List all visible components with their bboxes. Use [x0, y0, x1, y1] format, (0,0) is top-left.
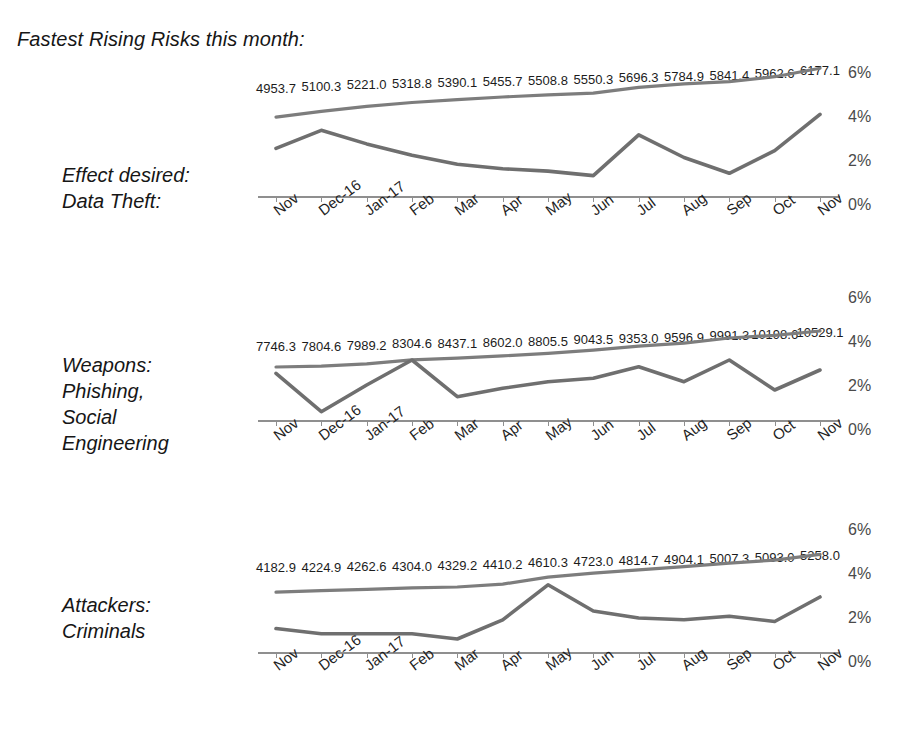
- row-label-weapons: Weapons: Phishing, Social Engineering: [62, 352, 169, 456]
- chart-page: Fastest Rising Risks this month: Effect …: [0, 0, 908, 751]
- page-title: Fastest Rising Risks this month:: [17, 28, 305, 51]
- y-axis-label: 2%: [848, 151, 896, 195]
- y-axis-label: 2%: [848, 376, 896, 420]
- y-axis-label: 6%: [848, 288, 896, 332]
- chart-2-volume-line: [276, 331, 820, 367]
- chart-1-volume-line: [276, 68, 820, 117]
- y-axis-label: 4%: [848, 107, 896, 151]
- y-axis-label: 6%: [848, 63, 896, 107]
- row-label-attackers: Attackers: Criminals: [62, 592, 151, 644]
- x-axis-labels-chart-3: NovDec-16Jan-17FebMarAprMayJunJulAugSepO…: [258, 660, 858, 720]
- row-label-effect-desired: Effect desired: Data Theft:: [62, 162, 190, 214]
- plot-area-chart-1: [258, 60, 838, 195]
- x-axis-labels-chart-2: NovDec-16Jan-17FebMarAprMayJunJulAugSepO…: [258, 430, 858, 490]
- chart-3-percent-line: [276, 585, 820, 639]
- chart-2-percent-line: [276, 360, 820, 412]
- y-axis-label: 0%: [848, 420, 896, 464]
- y-axis-label: 0%: [848, 195, 896, 239]
- chart-1-svg: [258, 60, 838, 196]
- y-axis-label: 6%: [848, 520, 896, 564]
- x-axis-labels-chart-1: NovDec-16Jan-17FebMarAprMayJunJulAugSepO…: [258, 205, 858, 265]
- y-axis-label: 4%: [848, 332, 896, 376]
- y-axis-labels-chart-1: 6%4%2%0%: [848, 63, 896, 239]
- y-axis-labels-chart-3: 6%4%2%0%: [848, 520, 896, 696]
- y-axis-label: 2%: [848, 608, 896, 652]
- y-axis-label: 0%: [848, 652, 896, 696]
- chart-1-percent-line: [276, 114, 820, 175]
- y-axis-labels-chart-2: 6%4%2%0%: [848, 288, 896, 464]
- y-axis-label: 4%: [848, 564, 896, 608]
